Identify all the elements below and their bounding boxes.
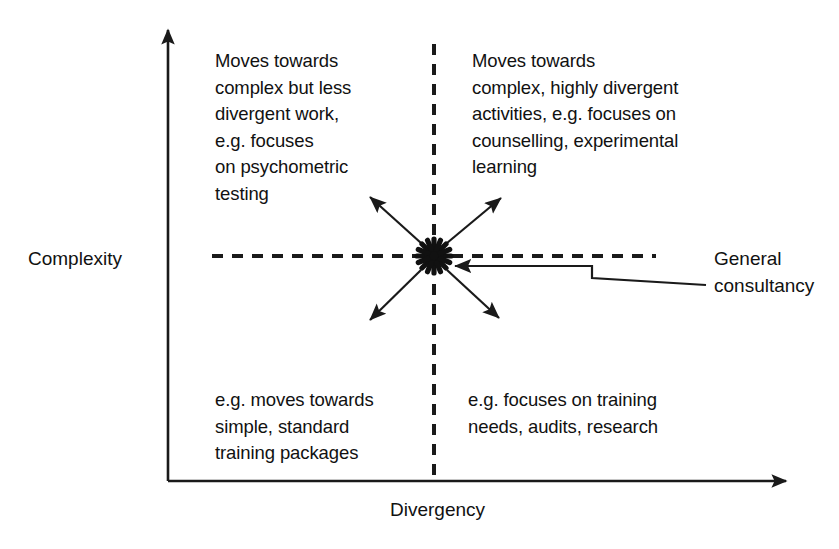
quadrant-text-bottom-right: e.g. focuses on training needs, audits, …	[468, 387, 738, 440]
general-consultancy-leader-line	[455, 266, 706, 285]
arrow-up-right	[447, 198, 501, 243]
quadrant-text-bottom-left: e.g. moves towards simple, standard trai…	[215, 387, 445, 467]
quadrant-text-top-left: Moves towards complex but less divergent…	[215, 48, 440, 207]
x-axis-label: Divergency	[390, 498, 485, 522]
general-consultancy-label: General consultancy	[714, 245, 839, 299]
y-axis-label: Complexity	[28, 247, 122, 271]
arrow-down-left	[370, 270, 421, 320]
quadrant-diagram: Moves towards complex but less divergent…	[0, 0, 839, 549]
quadrant-text-top-right: Moves towards complex, highly divergent …	[472, 48, 747, 181]
center-asterisk-icon	[417, 239, 451, 273]
arrow-down-right	[447, 270, 499, 318]
